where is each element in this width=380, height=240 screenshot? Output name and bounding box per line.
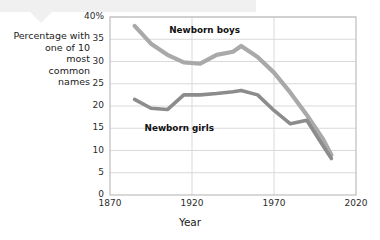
chart-figure: Percentage with one of 10 most common na…	[0, 0, 380, 240]
series-label-boys: Newborn boys	[169, 25, 240, 35]
x-tick-label: 1920	[172, 198, 212, 208]
y-tick-label: 40%	[72, 11, 104, 21]
y-tick-label: 20	[76, 100, 104, 110]
y-tick-label: 25	[76, 78, 104, 88]
y-tick-label: 35	[76, 33, 104, 43]
y-tick-label: 5	[76, 167, 104, 177]
x-tick-label: 1970	[254, 198, 294, 208]
x-axis-title: Year	[0, 216, 380, 228]
x-tick-label: 1870	[90, 198, 130, 208]
y-tick-label: 10	[76, 145, 104, 155]
y-tick-label: 30	[76, 56, 104, 66]
series-label-girls: Newborn girls	[145, 123, 214, 133]
y-tick-label: 15	[76, 122, 104, 132]
x-tick-label: 2020	[336, 198, 376, 208]
